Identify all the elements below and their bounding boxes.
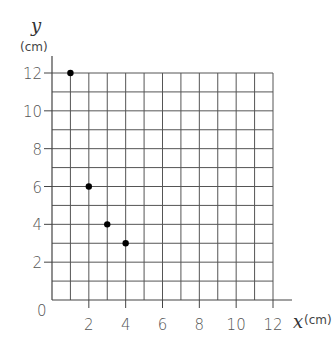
y-tick-label: 2 [32,254,42,272]
chart: 2468101224681012 0 y (cm) x (cm) [0,0,334,354]
y-axis-unit: (cm) [20,40,48,54]
data-points [67,70,129,247]
y-axis-label: y [30,15,42,36]
y-tick-label: 8 [32,141,42,159]
grid [52,73,273,300]
x-axis-unit: (cm) [304,313,332,327]
x-tick-label: 12 [263,316,282,334]
axes [52,56,292,300]
y-tick-label: 4 [32,216,42,234]
data-point [86,183,92,189]
x-axis-label: x [293,311,303,332]
x-tick-label: 8 [195,316,205,334]
origin-label: 0 [37,302,47,320]
data-point [122,240,128,246]
x-tick-label: 6 [158,316,168,334]
data-point [67,70,73,76]
y-tick-label: 10 [23,103,42,121]
ticks: 2468101224681012 [23,65,283,334]
y-tick-label: 6 [32,179,42,197]
data-point [104,221,110,227]
y-tick-label: 12 [23,65,42,83]
x-tick-label: 4 [121,316,131,334]
x-tick-label: 10 [227,316,246,334]
x-tick-label: 2 [84,316,94,334]
